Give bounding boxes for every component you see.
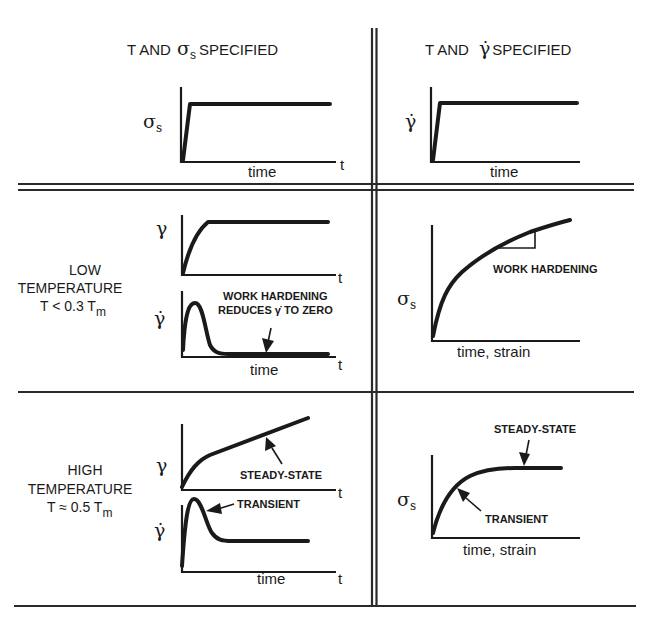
- curve: [433, 103, 577, 160]
- chart-input-strain-rate: γ̇ time: [405, 87, 580, 180]
- x-end-label: t: [338, 356, 343, 373]
- chart-low-strain: γ t: [156, 215, 343, 286]
- y-label-sigma: σs: [143, 110, 162, 135]
- chart-high-stress: σs STEADY-STATE TRANSIENT time, strain: [397, 423, 580, 558]
- axes: [431, 87, 580, 162]
- annotation-work-hardening: WORK HARDENING: [493, 263, 598, 275]
- annotation-steady-state: STEADY-STATE: [240, 469, 322, 481]
- arrow-up-icon: [265, 437, 276, 451]
- chart-high-strain: γ STEADY-STATE t: [156, 418, 343, 501]
- curve: [433, 220, 570, 336]
- row-label-high-temperature: HIGH TEMPERATURE T ≈ 0.5 Tm: [28, 462, 133, 520]
- left-column-header: T ANDσsSPECIFIED: [127, 37, 278, 62]
- chart-low-stress: σs WORK HARDENING time, strain: [397, 220, 598, 360]
- deformation-response-diagram: T ANDσsSPECIFIED T ANDγ̇SPECIFIED σs tim…: [0, 0, 650, 622]
- x-end-label: t: [338, 570, 343, 587]
- arrow-shaft: [272, 448, 282, 464]
- annotation-transient: TRANSIENT: [237, 498, 300, 510]
- annotation-steady-state: STEADY-STATE: [494, 423, 576, 435]
- annotation-transient: TRANSIENT: [485, 513, 548, 525]
- arrow-shaft: [466, 498, 481, 511]
- y-label-gamma-dot: γ̇: [154, 307, 165, 329]
- row-label-line3: T < 0.3 Tm: [40, 298, 106, 319]
- x-end-label: t: [340, 156, 345, 173]
- arrow-down-icon: [519, 452, 530, 466]
- chart-low-strain-rate: γ̇ WORK HARDENING REDUCES γ̇ TO ZERO tim…: [154, 290, 343, 378]
- y-label-gamma-dot: γ̇: [154, 519, 165, 541]
- row-label-low-temperature: LOW TEMPERATURE T < 0.3 Tm: [18, 262, 123, 319]
- chart-input-stress: σs time t: [143, 87, 345, 180]
- chart-high-strain-rate: γ̇ TRANSIENT time t: [154, 498, 343, 587]
- y-label-gamma-dot: γ̇: [405, 110, 416, 132]
- x-label-time: time: [257, 570, 285, 587]
- y-label-gamma: γ: [156, 454, 167, 476]
- curve: [183, 222, 328, 273]
- annotation-reduces-to-zero: REDUCES γ̇ TO ZERO: [218, 304, 333, 316]
- right-column-header: T ANDγ̇SPECIFIED: [425, 37, 572, 59]
- arrow-left-icon: [206, 503, 222, 514]
- x-label-time-strain: time, strain: [463, 541, 536, 558]
- arrow-down-icon: [262, 338, 274, 353]
- axes: [181, 87, 336, 162]
- row-label-line3: T ≈ 0.5 Tm: [47, 499, 112, 520]
- row-label-line2: TEMPERATURE: [28, 481, 133, 497]
- x-end-label: t: [338, 269, 343, 286]
- x-end-label: t: [338, 484, 343, 501]
- row-label-line1: LOW: [69, 262, 102, 278]
- x-label-time: time: [250, 361, 278, 378]
- row-label-line2: TEMPERATURE: [18, 280, 123, 296]
- row-label-line1: HIGH: [68, 462, 103, 478]
- x-label-time: time: [490, 163, 518, 180]
- y-label-gamma: γ: [156, 217, 167, 239]
- y-label-sigma: σs: [397, 488, 416, 513]
- annotation-work-hardening: WORK HARDENING: [223, 290, 328, 302]
- y-label-sigma: σs: [397, 287, 416, 312]
- x-label-time-strain: time, strain: [457, 343, 530, 360]
- arrow-shaft: [526, 440, 529, 455]
- curve: [183, 104, 330, 160]
- x-label-time: time: [248, 163, 276, 180]
